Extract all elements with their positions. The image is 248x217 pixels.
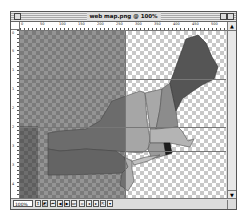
ruler-tick: 200 [97, 22, 104, 26]
ruler-tick: 450 [192, 22, 199, 26]
ruler-tick: 5 [12, 49, 14, 53]
ruler-tick: 2 [12, 125, 14, 129]
window-title: web map.png @ 100% [86, 12, 160, 21]
ruler-tick: 3 [12, 144, 14, 148]
ruler-tick: 250 [116, 22, 123, 26]
slice-next-icon[interactable]: ▸ [93, 200, 99, 207]
document-window: web map.png @ 100% 0 50 100 150 200 250 … [10, 11, 237, 210]
ruler-tick: 3 [12, 163, 14, 167]
ruler-tick: 400 [173, 22, 180, 26]
zoom-stepper-icon[interactable]: ⇕ [35, 200, 41, 207]
play-icon[interactable]: ▶ [64, 200, 70, 207]
ruler-tick: 150 [78, 22, 85, 26]
vertical-scrollbar[interactable]: ▲ ▼ [227, 22, 236, 199]
ruler-tick: 0 [21, 22, 23, 26]
ruler-tick: 1 [12, 68, 14, 72]
ruler-tick: 4 [12, 182, 14, 186]
title-bar[interactable]: web map.png @ 100% [11, 12, 236, 22]
ruler-tick: 100 [59, 22, 66, 26]
next-frame-icon[interactable]: ⏭ [71, 200, 77, 207]
prev-frame-icon[interactable]: ◀ [57, 200, 63, 207]
scroll-up-arrow-icon[interactable]: ▲ [228, 22, 236, 31]
slice-select-icon[interactable]: ▫ [79, 200, 85, 207]
ruler-tick: 1 [12, 87, 14, 91]
slice-guide-horizontal[interactable] [20, 127, 226, 128]
slice-guide-horizontal[interactable] [20, 79, 226, 80]
ruler-tick: 500 [211, 22, 218, 26]
ruler-tick: 350 [154, 22, 161, 26]
image-canvas[interactable] [20, 31, 226, 200]
ruler-tick: 300 [135, 22, 142, 26]
options-icon[interactable]: ▾ [107, 200, 113, 207]
vertical-ruler[interactable]: 0 5 1 1 2 2 3 3 4 [11, 30, 20, 199]
ruler-tick: 0 [12, 31, 14, 35]
ruler-origin[interactable] [11, 22, 20, 30]
collapse-box-button[interactable] [227, 13, 234, 20]
slice-guide-vertical[interactable] [125, 31, 126, 200]
slice-overlay-secondary [20, 126, 38, 200]
long-island [132, 155, 160, 165]
slice-guide-horizontal[interactable] [125, 151, 226, 152]
state-maine [170, 35, 218, 111]
zoom-box-button[interactable] [220, 13, 227, 20]
jump-to-icon[interactable]: ⇱ [100, 200, 106, 207]
preview-toggle-icon[interactable]: ◩ [42, 200, 48, 207]
ruler-tick: 2 [12, 106, 14, 110]
ruler-tick: 50 [40, 22, 44, 26]
first-frame-icon[interactable]: ⏮ [50, 200, 56, 207]
resize-grip-icon[interactable] [227, 200, 236, 209]
close-box-button[interactable] [14, 13, 21, 20]
status-bar: 100% ⇕ ◩ ⏮ ◀ ▶ ⏭ ▫ ◂ ▸ ⇱ ▾ [11, 198, 236, 209]
slice-prev-icon[interactable]: ◂ [86, 200, 92, 207]
zoom-level-field[interactable]: 100% [13, 200, 33, 207]
horizontal-ruler[interactable]: 0 50 100 150 200 250 300 350 400 450 500 [20, 22, 227, 31]
